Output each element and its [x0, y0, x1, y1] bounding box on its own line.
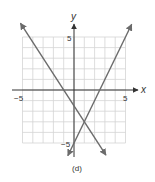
y-tick-label-min: −5: [61, 140, 71, 149]
y-axis-label: y: [70, 11, 77, 22]
figure-caption: (d): [72, 164, 82, 173]
x-tick-label-min: −5: [14, 94, 24, 103]
x-tick-label-max: 5: [123, 94, 128, 103]
chart-svg: x y −5 5 5 −5 (d): [0, 0, 155, 182]
series-line-1: [20, 23, 105, 155]
coordinate-plane-figure: x y −5 5 5 −5 (d): [0, 0, 155, 182]
y-tick-label-max: 5: [67, 34, 72, 43]
x-axis-label: x: [140, 84, 147, 95]
